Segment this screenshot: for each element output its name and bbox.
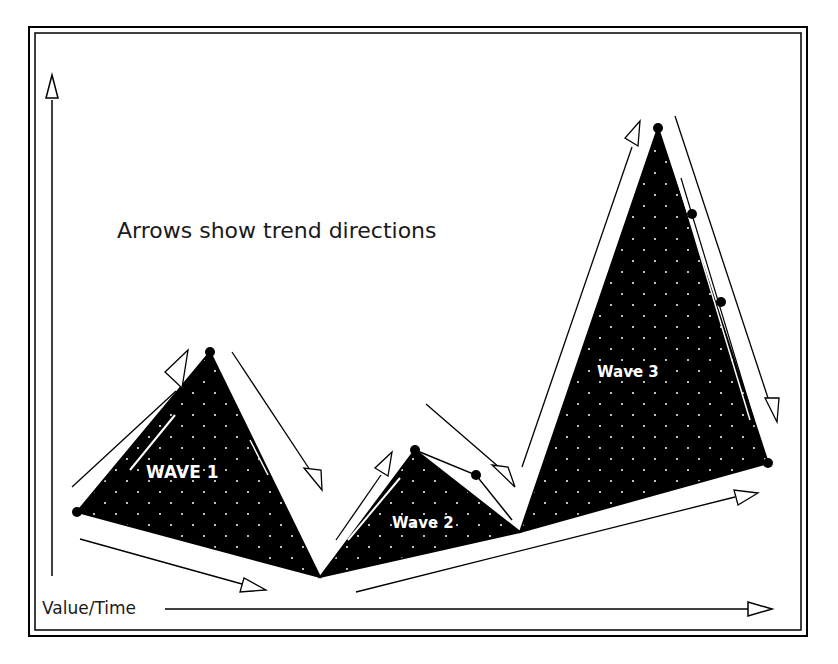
wave-1-label: WAVE 1 — [146, 462, 219, 482]
wave-3: Wave 3 — [520, 123, 773, 532]
elliott-wave-diagram: Value/Time Arrows show trend directions … — [0, 0, 838, 664]
wave-1: WAVE 1 — [72, 347, 320, 577]
y-axis-arrow-icon — [46, 75, 58, 98]
x-axis — [165, 602, 772, 616]
y-axis — [46, 75, 58, 576]
x-axis-arrow-icon — [748, 602, 772, 616]
caption: Arrows show trend directions — [117, 218, 437, 243]
x-axis-label: Value/Time — [42, 598, 136, 618]
wave-2-label: Wave 2 — [392, 514, 454, 532]
wave-3-label: Wave 3 — [597, 363, 659, 381]
wave-2: Wave 2 — [320, 445, 520, 577]
